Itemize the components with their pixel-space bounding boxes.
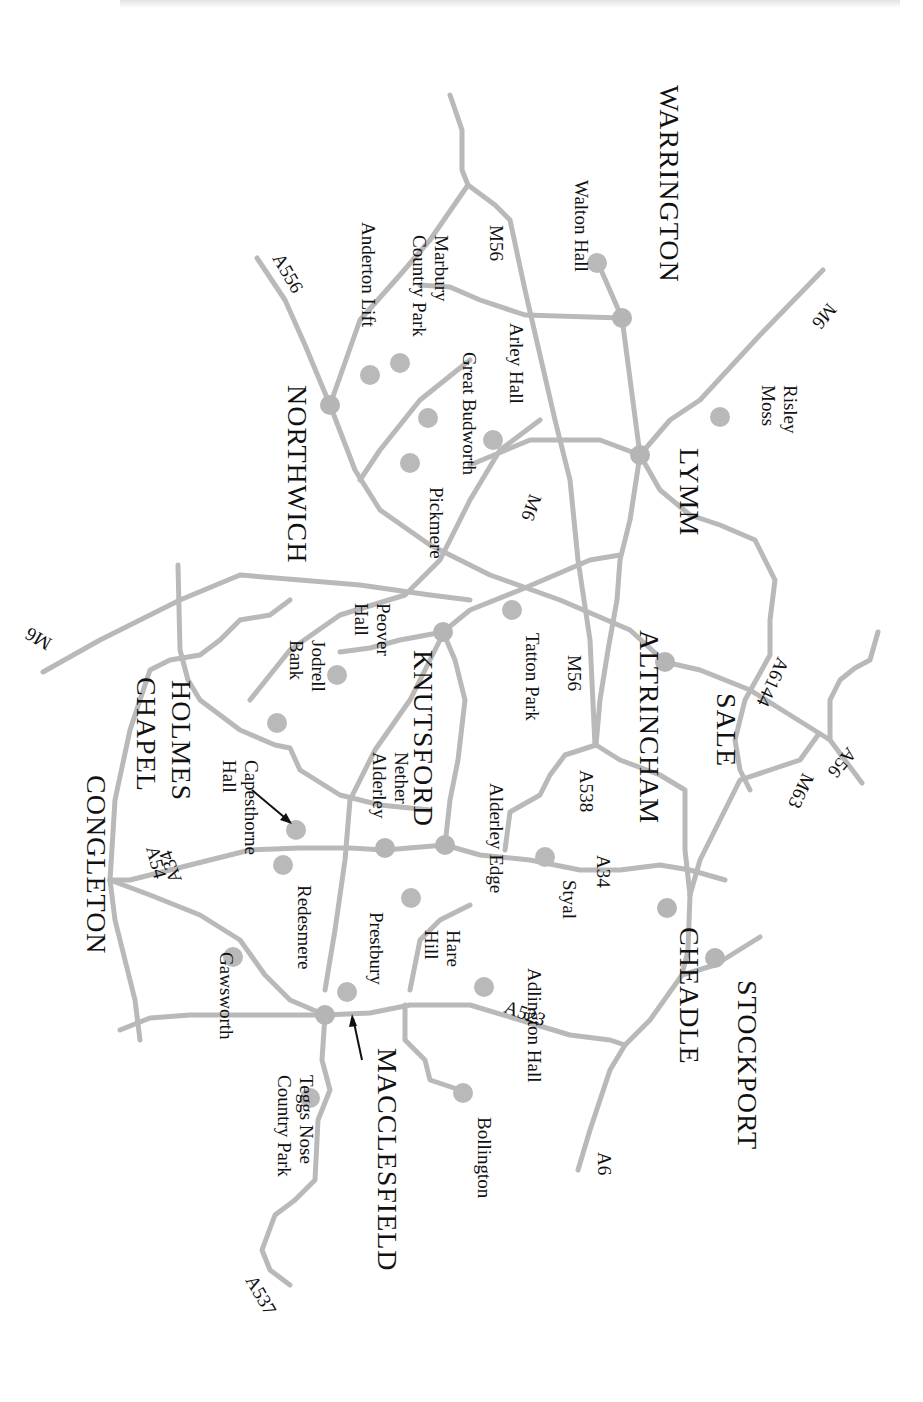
road-a537 — [262, 1015, 330, 1285]
town-label-lymm: LYMM — [674, 448, 705, 536]
place-label-bollington: Bollington — [474, 1117, 495, 1199]
place-label-anderton-lift: Anderton Lift — [358, 222, 379, 328]
node-stockport — [705, 948, 725, 968]
road-walton — [596, 263, 640, 745]
place-label-arley-hall: Arley Hall — [506, 323, 527, 404]
node-macclesfield — [315, 1005, 335, 1025]
place-label-jodrell-bank: Jodrell — [308, 640, 329, 692]
road-label-m6-w: M6 — [22, 623, 55, 654]
poi-great-budworth — [418, 408, 438, 428]
road-knutsford-south — [443, 632, 465, 845]
place-label-redesmere: Redesmere — [294, 885, 315, 969]
town-label-altrincham: ALTRINCHAM — [634, 630, 665, 824]
road-label-a556: A556 — [269, 250, 308, 297]
road-label-a34-n: A34 — [593, 855, 614, 888]
place-label-marbury: Marbury — [431, 235, 452, 302]
place-label-alderley-edge: Alderley Edge — [486, 783, 507, 893]
place-label-walton-hall: Walton Hall — [571, 180, 592, 272]
place-label-nether-alderley: Alderley — [369, 752, 390, 819]
poi-peover-hall — [327, 665, 347, 685]
road-a34-main — [110, 845, 725, 880]
road-label-m6-mid: M6 — [517, 492, 546, 524]
place-label-jodrell-bank: Bank — [286, 640, 307, 681]
road-m6-west — [43, 575, 470, 672]
place-label-marbury: Country Park — [409, 235, 430, 337]
place-label-teggs-nose: Country Park — [274, 1075, 295, 1177]
poi-tatton-park — [502, 600, 522, 620]
poi-anderton-lift — [360, 365, 380, 385]
node-lymm — [630, 445, 650, 465]
poi-prestbury — [337, 982, 357, 1002]
poi-marbury — [390, 353, 410, 373]
poi-alderley-edge — [401, 888, 421, 908]
poi-redesmere — [273, 855, 293, 875]
place-label-capesthorne-hall: Capesthorne — [241, 760, 262, 855]
town-label-holmes: HOLMES — [166, 680, 197, 801]
road-label-a6: A6 — [594, 1152, 615, 1175]
place-label-tatton-park: Tatton Park — [522, 633, 543, 721]
town-label-northwich: NORTHWICH — [282, 385, 313, 563]
place-label-risley-moss: Risley — [780, 385, 801, 434]
cheshire-map: WARRINGTONLYMMNORTHWICHKNUTSFORDALTRINCH… — [0, 0, 923, 1402]
node-knutsford-n — [433, 622, 453, 642]
poi-adlington-hall — [474, 977, 494, 997]
road-a523 — [120, 1005, 625, 1045]
road-label-a538: A538 — [576, 770, 597, 812]
place-label-styal: Styal — [559, 880, 580, 919]
node-cheadle — [657, 898, 677, 918]
town-label-stockport: STOCKPORT — [732, 980, 763, 1150]
node-knutsford-s — [435, 835, 455, 855]
road-label-a537: A537 — [242, 1272, 281, 1319]
place-label-great-budworth: Great Budworth — [459, 352, 480, 475]
poi-risley-moss — [710, 407, 730, 427]
place-labels: Walton HallRisleyMossMarburyCountry Park… — [216, 180, 801, 1199]
road-label-a6144: A6144 — [752, 654, 793, 710]
node-warrington — [612, 308, 632, 328]
poi-pickmere — [400, 453, 420, 473]
place-label-teggs-nose: Teggs Nose — [296, 1075, 317, 1164]
town-label-warrington: WARRINGTON — [654, 85, 685, 283]
road-bollington — [405, 1005, 460, 1090]
node-northwich — [320, 395, 340, 415]
town-label-congleton: CONGLETON — [81, 775, 112, 955]
place-label-hare-hill: Hill — [421, 930, 442, 960]
poi-styal — [535, 847, 555, 867]
town-label-macclesfield: MACCLESFIELD — [372, 1048, 403, 1272]
road-congleton-vertical — [110, 880, 140, 1040]
node-nether-alderley — [375, 838, 395, 858]
poi-jodrell-bank — [267, 713, 287, 733]
road-label-m63: M63 — [784, 770, 818, 811]
road-label-m56-n: M56 — [486, 225, 507, 261]
place-label-prestbury: Prestbury — [366, 912, 387, 985]
road-a6 — [578, 975, 682, 1170]
poi-arley-hall — [483, 430, 503, 450]
town-label-chapel: CHAPEL — [131, 677, 162, 792]
road-label-m6-ne: M6 — [808, 299, 841, 333]
place-label-risley-moss: Moss — [758, 385, 779, 426]
road-m63 — [690, 735, 818, 895]
place-label-hare-hill: Hare — [443, 930, 464, 967]
place-label-peover-hall: Hall — [351, 603, 372, 636]
road-label-m56-s: M56 — [564, 655, 585, 691]
poi-bollington — [453, 1083, 473, 1103]
place-label-nether-alderley: Nether — [391, 752, 412, 804]
town-label-cheadle: CHEADLE — [674, 927, 705, 1065]
place-label-peover-hall: Peover — [373, 603, 394, 656]
road-a56 — [830, 632, 878, 740]
place-label-capesthorne-hall: Hall — [219, 760, 240, 793]
town-label-sale: SALE — [711, 693, 742, 767]
place-label-gawsworth: Gawsworth — [216, 952, 237, 1040]
place-label-pickmere: Pickmere — [426, 487, 447, 559]
